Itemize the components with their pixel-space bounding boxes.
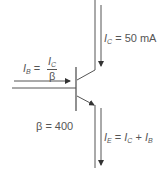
- collector-current-label: IC = 50 mA: [104, 33, 156, 45]
- collector-diagonal: [77, 70, 95, 80]
- base-current-fraction: IC β: [47, 56, 57, 82]
- gain-label: β = 400: [36, 121, 73, 132]
- base-current-label: IB =: [23, 63, 40, 75]
- transistor-diagram: [0, 0, 164, 181]
- emitter-current-label: IE = IC + IB: [104, 132, 153, 144]
- emitter-diagonal: [77, 96, 94, 105]
